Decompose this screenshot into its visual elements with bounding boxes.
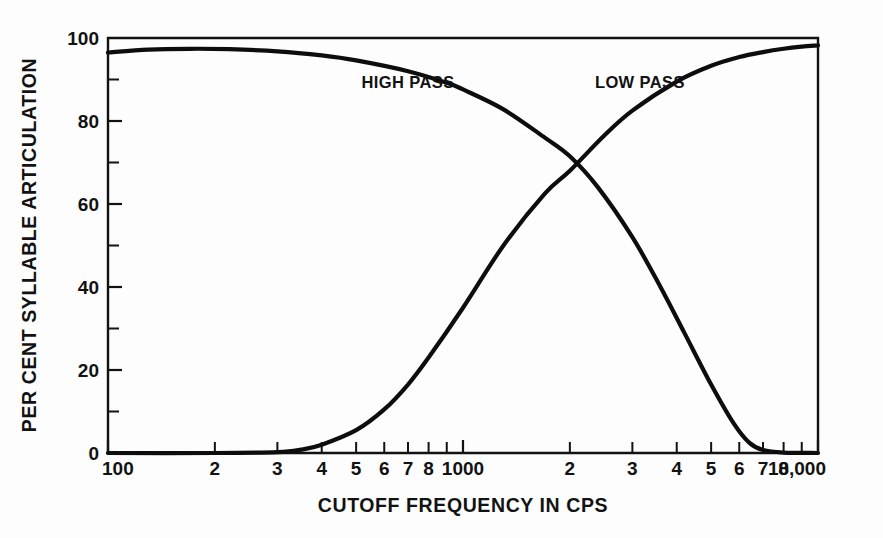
- x-tick-label-7: 7: [758, 458, 769, 479]
- x-tick-label-3: 3: [272, 458, 283, 479]
- y-tick-label-0: 0: [88, 443, 99, 464]
- x-tick-label-10,000: 10,000: [768, 458, 826, 479]
- x-tick-label-1000: 1000: [442, 458, 484, 479]
- articulation-vs-cutoff-frequency-chart: 10023456781000234567810,000 020406080100…: [0, 0, 883, 538]
- y-tick-label-60: 60: [78, 194, 99, 215]
- x-tick-label-2: 2: [210, 458, 221, 479]
- x-tick-label-2: 2: [565, 458, 576, 479]
- y-tick-label-100: 100: [67, 28, 99, 49]
- plot-frame-border: [108, 38, 818, 453]
- x-tick-label-5: 5: [706, 458, 717, 479]
- x-tick-label-8: 8: [423, 458, 434, 479]
- series-annotations: HIGH PASSLOW PASS: [361, 73, 684, 91]
- x-axis-tick-labels: 10023456781000234567810,000: [102, 458, 826, 479]
- x-tick-label-5: 5: [351, 458, 362, 479]
- curve-low-pass: [108, 45, 818, 453]
- x-tick-label-6: 6: [379, 458, 390, 479]
- x-tick-label-6: 6: [734, 458, 745, 479]
- data-curves: [108, 45, 818, 453]
- x-axis-title: CUTOFF FREQUENCY IN CPS: [318, 494, 608, 516]
- y-axis-tick-labels: 020406080100: [67, 28, 99, 464]
- y-tick-label-20: 20: [78, 360, 99, 381]
- y-axis-tick-marks: [108, 80, 122, 412]
- x-tick-label-3: 3: [627, 458, 638, 479]
- plot-frame: [108, 38, 818, 453]
- x-tick-label-4: 4: [671, 458, 682, 479]
- x-tick-label-100: 100: [102, 458, 134, 479]
- x-tick-label-7: 7: [403, 458, 414, 479]
- y-tick-label-40: 40: [78, 277, 99, 298]
- y-axis-title: PER CENT SYLLABLE ARTICULATION: [18, 58, 40, 432]
- series-label-high-pass: HIGH PASS: [361, 73, 454, 91]
- x-tick-label-4: 4: [316, 458, 327, 479]
- series-label-low-pass: LOW PASS: [595, 73, 685, 91]
- y-tick-label-80: 80: [78, 111, 99, 132]
- figure-container: 10023456781000234567810,000 020406080100…: [0, 0, 883, 538]
- curve-high-pass: [108, 49, 818, 453]
